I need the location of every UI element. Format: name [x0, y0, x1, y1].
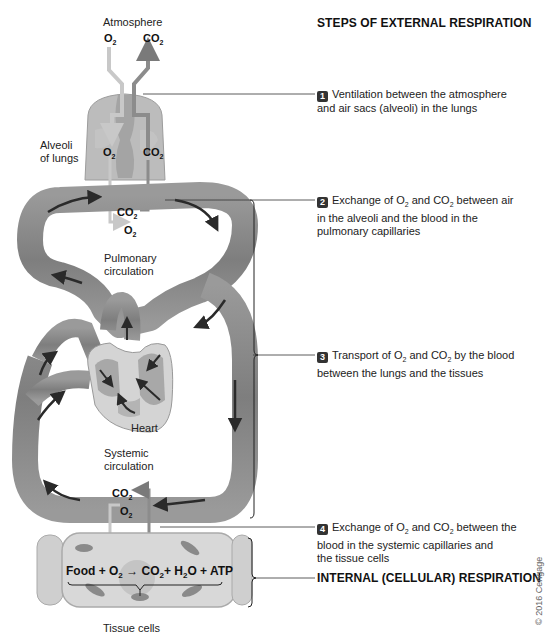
systemic-co2-label: CO2: [112, 487, 132, 501]
alveoli-o2-label: O2: [103, 146, 115, 160]
cellular-respiration-equation: Food + O2 → CO2+ H2O + ATP: [66, 564, 233, 580]
step-1: 1Ventilation between the atmosphere and …: [317, 88, 507, 116]
step-4: 4Exchange of O2 and CO2 between the bloo…: [317, 521, 517, 566]
pulmonary-o2-label: O2: [124, 224, 136, 238]
atmosphere-label: Atmosphere: [103, 16, 162, 29]
copyright-notice: © 2016 Cengage: [534, 557, 544, 625]
pulmonary-circulation-label: Pulmonarycirculation: [104, 252, 157, 278]
step-2-badge: 2: [317, 197, 328, 208]
atmosphere-o2-label: O2: [104, 32, 116, 46]
alveoli-label: Alveoliof lungs: [40, 139, 79, 165]
tissue-cells-label: Tissue cells: [103, 622, 160, 635]
lung-shape: [85, 94, 165, 180]
systemic-o2-label: O2: [120, 505, 132, 519]
step-3: 3Transport of O2 and CO2 by the blood be…: [317, 349, 514, 380]
step-1-badge: 1: [317, 91, 328, 102]
step-3-badge: 3: [317, 352, 328, 363]
atmosphere-co2-label: CO2: [143, 32, 163, 46]
alveoli-co2-label: CO2: [143, 146, 163, 160]
page-title: STEPS OF EXTERNAL RESPIRATION: [317, 16, 531, 30]
heart-label: Heart: [131, 422, 158, 435]
step-2: 2Exchange of O2 and CO2 between air in t…: [317, 194, 514, 239]
step-4-badge: 4: [317, 524, 328, 535]
systemic-circulation-label: Systemiccirculation: [104, 447, 154, 473]
pulmonary-co2-label: CO2: [117, 206, 137, 220]
internal-respiration-heading: INTERNAL (CELLULAR) RESPIRATION: [317, 571, 541, 585]
